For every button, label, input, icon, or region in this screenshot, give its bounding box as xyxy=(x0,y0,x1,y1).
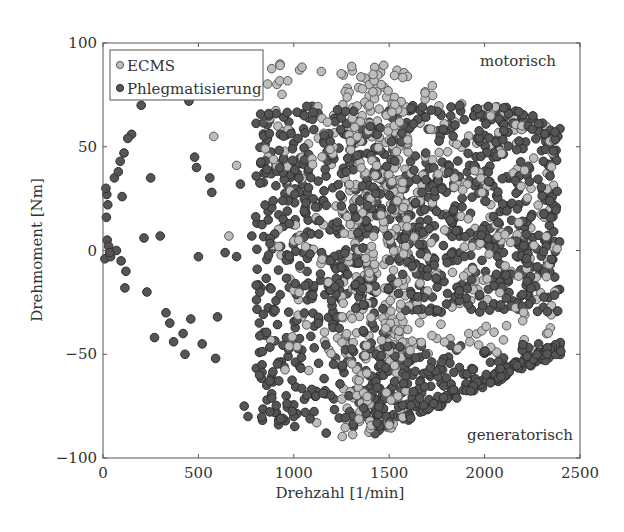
svg-text:2500: 2500 xyxy=(561,464,599,482)
legend-marker-phlegmatisierung-icon xyxy=(116,84,123,91)
legend: ECMS Phlegmatisierung xyxy=(110,50,263,100)
annotation-generatorisch: generatorisch xyxy=(467,426,573,444)
legend-marker-ecms-icon xyxy=(116,61,123,68)
svg-text:0: 0 xyxy=(98,464,108,482)
scatter-chart: 05001000150020002500−100−50050100 motori… xyxy=(0,0,624,532)
annotation-motorisch: motorisch xyxy=(480,52,556,70)
svg-text:2000: 2000 xyxy=(466,464,504,482)
svg-text:100: 100 xyxy=(68,34,97,52)
legend-label-ecms: ECMS xyxy=(127,57,175,75)
svg-text:−50: −50 xyxy=(65,345,97,363)
svg-text:1000: 1000 xyxy=(275,464,313,482)
svg-text:500: 500 xyxy=(184,464,213,482)
y-axis-label: Drehmoment [Nm] xyxy=(28,178,46,322)
x-axis-label: Drehzahl [1/min] xyxy=(276,484,405,502)
svg-text:50: 50 xyxy=(78,138,97,156)
svg-text:−100: −100 xyxy=(56,449,97,467)
svg-text:1500: 1500 xyxy=(370,464,408,482)
legend-label-phlegmatisierung: Phlegmatisierung xyxy=(127,80,262,98)
svg-text:0: 0 xyxy=(87,242,97,260)
